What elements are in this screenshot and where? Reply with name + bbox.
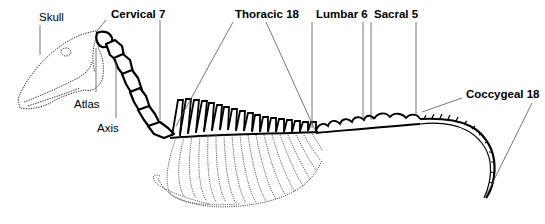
thoracic-vertebrae	[170, 99, 318, 138]
label-sacral: Sacral 5	[374, 9, 418, 21]
label-thoracic: Thoracic 18	[235, 9, 299, 21]
coccygeal-vertebrae	[420, 114, 495, 198]
rib-cage	[153, 134, 322, 207]
label-lumbar: Lumbar 6	[316, 9, 368, 21]
label-axis: Axis	[97, 123, 119, 135]
label-atlas: Atlas	[74, 99, 100, 111]
lumbar-sacral-vertebrae	[316, 113, 420, 133]
label-skull: Skull	[39, 12, 64, 24]
horse-skeleton-diagram: Skull Cervical 7 Thoracic 18 Lumbar 6 Sa…	[0, 0, 545, 224]
label-coccygeal: Coccygeal 18	[466, 89, 540, 101]
skeleton-drawing	[0, 0, 545, 224]
label-cervical: Cervical 7	[111, 9, 165, 21]
